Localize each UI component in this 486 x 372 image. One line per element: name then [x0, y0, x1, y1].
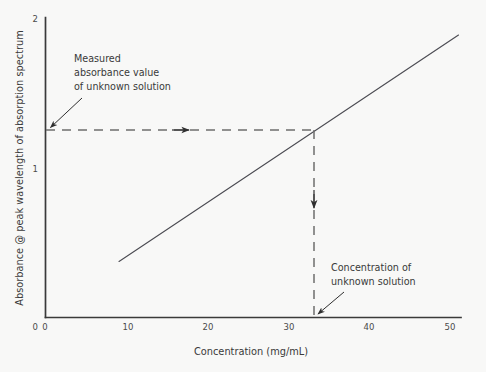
y-tick-label-2: 2 — [33, 14, 38, 24]
y-tick-label-1: 1 — [33, 164, 38, 174]
plot-canvas: 2 1 0 0 10 20 30 40 50 Concentration (mg… — [0, 0, 486, 372]
x-tick-label-40: 40 — [364, 322, 375, 332]
y-tick-label-0: 0 — [33, 322, 38, 332]
annotation-unknown-concentration-line-1: Concentration of — [331, 262, 412, 273]
annotation-measured-absorbance-leader — [51, 98, 83, 128]
x-tick-label-20: 20 — [203, 322, 214, 332]
annotation-unknown-concentration-leader — [318, 292, 344, 314]
calibration-curve-line — [119, 35, 459, 262]
annotation-measured-absorbance-line-3: of unknown solution — [74, 81, 171, 92]
annotation-unknown-concentration-line-2: unknown solution — [331, 276, 416, 287]
annotation-unknown-concentration: Concentration of unknown solution — [318, 262, 416, 314]
x-tick-label-0: 0 — [42, 322, 47, 332]
x-tick-label-30: 30 — [284, 322, 295, 332]
annotation-measured-absorbance: Measured absorbance value of unknown sol… — [51, 53, 171, 128]
calibration-curve-figure: 2 1 0 0 10 20 30 40 50 Concentration (mg… — [0, 0, 486, 372]
annotation-measured-absorbance-line-2: absorbance value — [74, 67, 159, 78]
x-axis-tick-labels: 0 10 20 30 40 50 — [42, 322, 455, 332]
x-axis-title: Concentration (mg/mL) — [194, 346, 308, 357]
x-tick-label-50: 50 — [445, 322, 456, 332]
y-axis-tick-labels: 2 1 0 — [33, 14, 38, 333]
annotation-measured-absorbance-line-1: Measured — [74, 53, 121, 64]
x-tick-label-10: 10 — [123, 322, 134, 332]
y-axis-title: Absorbance @ peak wavelength of absorpti… — [14, 30, 25, 306]
